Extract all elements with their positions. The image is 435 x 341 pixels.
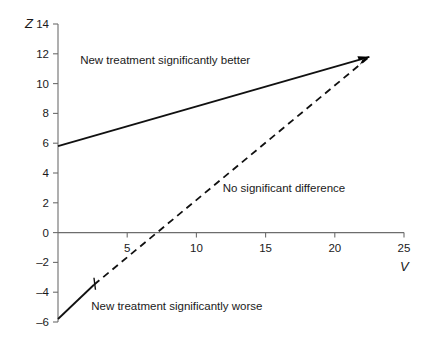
chart-plot-area: 14121086420–2–4–6510152025 ZV New treatm… — [0, 0, 435, 341]
y-tick-label: 10 — [36, 78, 49, 90]
y-tick-label: 6 — [43, 137, 49, 149]
y-tick-label: –2 — [36, 256, 49, 268]
x-tick-label: 15 — [259, 242, 272, 254]
axes-group — [58, 24, 404, 322]
region-annotations-group: New treatment significantly betterNo sig… — [80, 54, 345, 312]
y-axis-title: Z — [24, 16, 34, 31]
y-tick-label: 2 — [43, 197, 49, 209]
x-axis-title: V — [400, 259, 410, 274]
x-tick-label: 10 — [190, 242, 203, 254]
x-tick-label: 5 — [124, 242, 130, 254]
x-tick-label: 20 — [328, 242, 341, 254]
chart-figure: 14121086420–2–4–6510152025 ZV New treatm… — [0, 0, 435, 341]
y-tick-label: 14 — [36, 18, 49, 30]
boundary-line-upper-boundary — [58, 57, 369, 146]
x-tick-label: 25 — [398, 242, 411, 254]
boundary-transition-tick — [94, 278, 96, 290]
boundary-line-lower-boundary-solid-segment — [58, 285, 94, 319]
region-better-label: New treatment significantly better — [80, 54, 250, 66]
y-tick-label: –6 — [36, 316, 49, 328]
y-tick-label: 8 — [43, 107, 49, 119]
y-tick-label: –4 — [36, 286, 49, 298]
region-worse-label: New treatment significantly worse — [91, 300, 262, 312]
markers-group — [94, 278, 96, 290]
y-tick-label: 0 — [43, 227, 49, 239]
region-no-difference-label: No significant difference — [223, 182, 346, 194]
y-tick-label: 12 — [36, 48, 49, 60]
y-tick-label: 4 — [43, 167, 50, 179]
